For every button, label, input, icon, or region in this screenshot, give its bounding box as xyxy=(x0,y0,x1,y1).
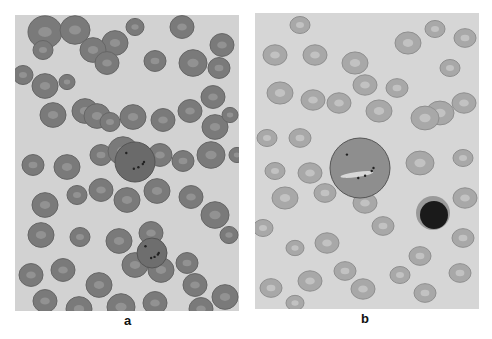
red-blood-cell xyxy=(411,106,439,130)
red-blood-cell xyxy=(342,52,368,74)
blood-smear-image-b xyxy=(255,13,479,309)
red-blood-cell xyxy=(210,34,234,57)
red-blood-cell xyxy=(107,294,135,311)
red-blood-cell xyxy=(220,226,238,243)
red-blood-cell xyxy=(366,100,392,122)
red-blood-cell xyxy=(144,51,166,72)
red-blood-cell xyxy=(95,52,119,75)
red-blood-cell xyxy=(267,82,293,104)
red-blood-cell xyxy=(449,264,471,283)
red-blood-cell xyxy=(257,130,277,147)
micrograph-panel-b xyxy=(255,13,479,309)
red-blood-cell xyxy=(272,187,298,209)
red-blood-cell xyxy=(286,295,304,309)
red-blood-cell xyxy=(40,103,66,128)
red-blood-cell xyxy=(100,113,120,132)
red-blood-cell xyxy=(172,151,194,172)
red-blood-cell xyxy=(453,150,473,167)
red-blood-cell xyxy=(22,155,44,176)
red-blood-cell xyxy=(290,17,310,34)
red-blood-cell xyxy=(120,105,146,130)
red-blood-cell xyxy=(151,109,175,132)
red-blood-cell xyxy=(390,267,410,284)
red-blood-cell xyxy=(33,41,53,60)
blood-smear-image-a xyxy=(15,15,239,311)
red-blood-cell xyxy=(89,179,113,202)
red-blood-cell xyxy=(114,188,140,213)
red-blood-cell xyxy=(170,16,194,39)
red-blood-cell xyxy=(286,240,304,255)
panel-label-a: a xyxy=(124,313,131,328)
red-blood-cell xyxy=(260,279,282,298)
red-blood-cell xyxy=(301,90,325,110)
red-blood-cell xyxy=(144,179,170,204)
red-blood-cell xyxy=(189,298,213,311)
red-blood-cell xyxy=(126,18,144,35)
stippled-cell xyxy=(137,238,167,268)
lymphocyte xyxy=(416,196,450,230)
red-blood-cell xyxy=(197,142,225,169)
red-blood-cell xyxy=(86,273,112,298)
red-blood-cell xyxy=(19,264,43,287)
red-blood-cell xyxy=(386,79,408,98)
red-blood-cell xyxy=(303,45,327,65)
red-blood-cell xyxy=(176,253,198,274)
red-blood-cell xyxy=(67,186,87,205)
red-blood-cell xyxy=(315,233,339,253)
red-blood-cell xyxy=(179,186,203,209)
red-blood-cell xyxy=(454,29,476,48)
red-blood-cell xyxy=(409,247,431,266)
red-blood-cell xyxy=(28,223,54,248)
red-blood-cell xyxy=(33,290,57,311)
red-blood-cell xyxy=(178,100,202,123)
red-blood-cell xyxy=(425,21,445,38)
red-blood-cell xyxy=(66,297,92,311)
red-blood-cell xyxy=(327,93,351,113)
red-blood-cell xyxy=(440,60,460,77)
red-blood-cell xyxy=(406,151,434,175)
red-blood-cell xyxy=(353,75,377,95)
red-blood-cell xyxy=(15,66,33,85)
red-blood-cell xyxy=(183,274,207,297)
stippled-large-cell xyxy=(115,142,155,182)
panel-label-b: b xyxy=(361,311,369,326)
red-blood-cell xyxy=(289,129,311,148)
red-blood-cell xyxy=(395,32,421,54)
red-blood-cell xyxy=(70,228,90,247)
red-blood-cell xyxy=(334,262,356,281)
red-blood-cell xyxy=(59,74,75,89)
red-blood-cell xyxy=(201,202,229,229)
red-blood-cell xyxy=(143,292,167,311)
red-blood-cell xyxy=(201,86,225,109)
red-blood-cell xyxy=(298,163,322,183)
red-blood-cell xyxy=(32,74,58,99)
red-blood-cell xyxy=(255,220,273,237)
red-blood-cell xyxy=(229,147,239,162)
red-blood-cell xyxy=(263,45,287,65)
red-blood-cell xyxy=(106,229,132,254)
red-blood-cell xyxy=(298,271,322,291)
red-blood-cell xyxy=(314,184,336,203)
red-blood-cell xyxy=(54,155,80,180)
red-blood-cell xyxy=(222,107,238,122)
red-blood-cell xyxy=(372,217,394,236)
red-blood-cell xyxy=(51,259,75,282)
large-cell-with-inclusions xyxy=(330,138,390,198)
red-blood-cell xyxy=(212,285,238,310)
micrograph-panel-a xyxy=(15,15,239,311)
red-blood-cell xyxy=(452,229,474,248)
red-blood-cell xyxy=(179,50,207,77)
red-blood-cell xyxy=(32,193,58,218)
red-blood-cell xyxy=(208,58,230,79)
red-blood-cell xyxy=(414,284,436,303)
red-blood-cell xyxy=(265,163,285,180)
red-blood-cell xyxy=(351,279,375,299)
red-blood-cell xyxy=(452,93,476,113)
red-blood-cell xyxy=(453,188,477,208)
